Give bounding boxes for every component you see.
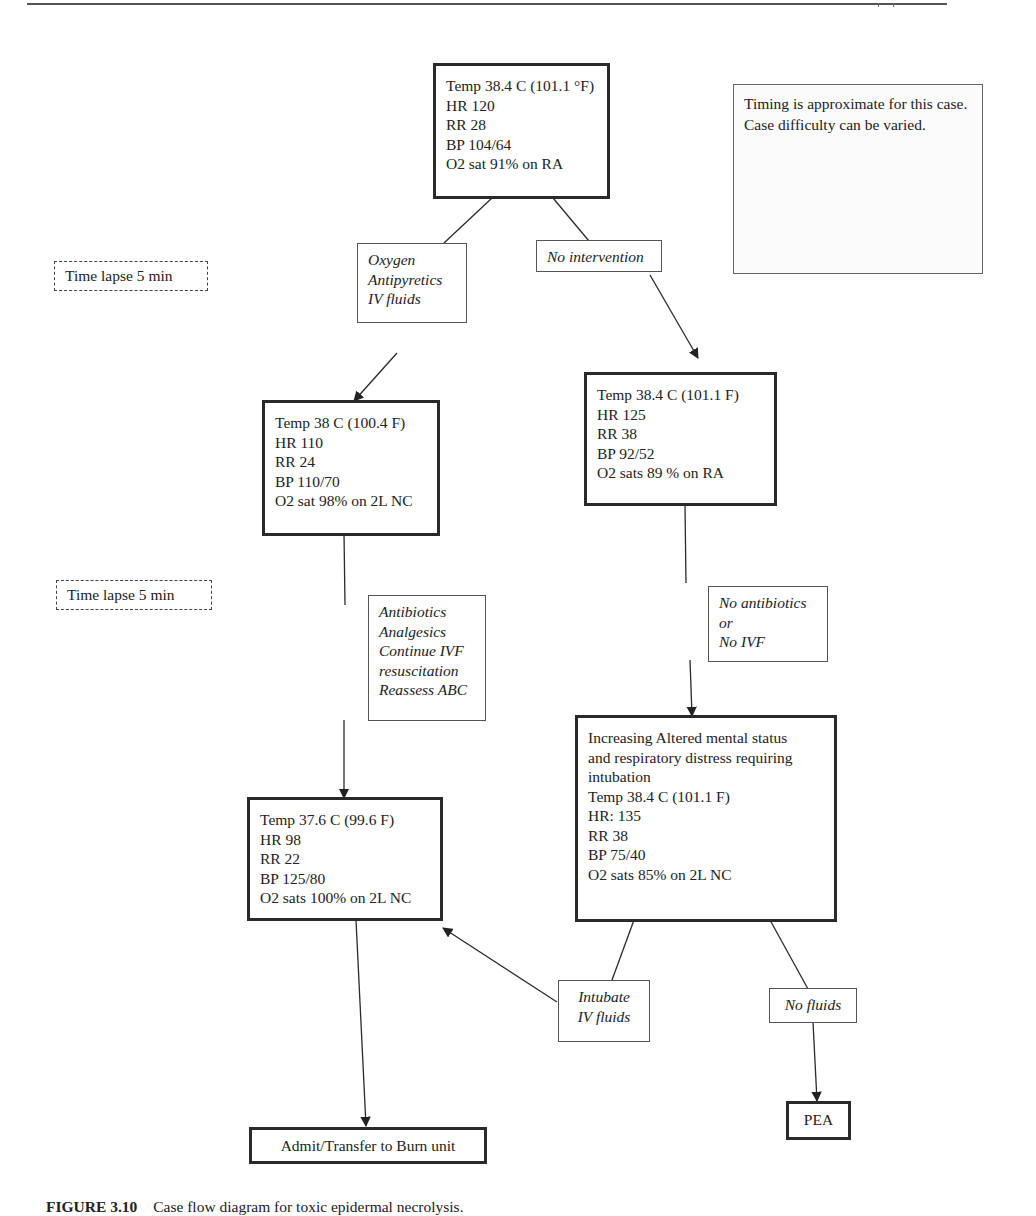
status-line: Increasing Altered mental status xyxy=(588,728,824,748)
outcome-label: PEA xyxy=(799,1110,838,1130)
time-lapse-marker-1: Time lapse 5 min xyxy=(54,261,208,291)
node-action-treat: Oxygen Antipyretics IV fluids xyxy=(357,243,467,323)
vital-o2: O2 sat 91% on RA xyxy=(446,154,597,174)
edge-nofluids-to-pea xyxy=(813,1022,817,1101)
edge-worse2-to-intubate xyxy=(612,920,634,980)
action-line: IV fluids xyxy=(368,289,456,309)
node-improved-vitals-1: Temp 38 C (100.4 F) HR 110 RR 24 BP 110/… xyxy=(262,400,440,536)
node-action-intubate: Intubate IV fluids xyxy=(558,980,650,1042)
vital-hr: HR 98 xyxy=(260,830,430,850)
vital-bp: BP 110/70 xyxy=(275,472,427,492)
action-line: Intubate xyxy=(569,987,639,1007)
vital-temp: Temp 38.4 C (101.1 °F) xyxy=(446,76,597,96)
edge-improved1-to-antibiotics xyxy=(344,533,345,605)
vital-rr: RR 24 xyxy=(275,452,427,472)
vital-o2: O2 sats 89 % on RA xyxy=(597,463,764,483)
time-lapse-label: Time lapse 5 min xyxy=(67,585,201,605)
node-action-no-fluids: No fluids xyxy=(769,988,857,1023)
action-line: IV fluids xyxy=(569,1007,639,1027)
node-outcome-pea: PEA xyxy=(786,1101,851,1140)
vital-hr: HR: 135 xyxy=(588,806,824,826)
vital-rr: RR 38 xyxy=(597,424,764,444)
node-outcome-admit: Admit/Transfer to Burn unit xyxy=(249,1127,487,1164)
edge-noabx-to-worse2 xyxy=(690,660,692,716)
outcome-label: Admit/Transfer to Burn unit xyxy=(262,1136,474,1156)
action-line: or xyxy=(719,613,817,633)
node-worse-vitals-1: Temp 38.4 C (101.1 F) HR 125 RR 38 BP 92… xyxy=(584,372,777,506)
figure-caption-text: Case flow diagram for toxic epidermal ne… xyxy=(153,1198,463,1215)
edge-none-to-worse1 xyxy=(650,275,698,358)
vital-hr: HR 120 xyxy=(446,96,597,116)
node-worse-vitals-2: Increasing Altered mental status and res… xyxy=(575,715,837,922)
vital-rr: RR 28 xyxy=(446,115,597,135)
vital-o2: O2 sat 98% on 2L NC xyxy=(275,491,431,511)
vital-rr: RR 38 xyxy=(588,826,824,846)
timing-note-text: Timing is approximate for this case. Cas… xyxy=(744,93,972,135)
vital-o2: O2 sats 100% on 2L NC xyxy=(260,888,430,908)
edge-worse2-to-nofluids xyxy=(770,920,808,989)
vital-rr: RR 22 xyxy=(260,849,430,869)
action-line: Oxygen xyxy=(368,250,456,270)
node-action-no-intervention: No intervention xyxy=(536,240,662,272)
node-action-no-antibiotics: No antibiotics or No IVF xyxy=(708,586,828,662)
edge-worse1-to-noabx xyxy=(685,505,686,583)
action-line: Continue IVF xyxy=(379,641,475,661)
vital-bp: BP 125/80 xyxy=(260,869,430,889)
figure-label: FIGURE 3.10 xyxy=(46,1198,137,1215)
vital-hr: HR 125 xyxy=(597,405,764,425)
vital-hr: HR 110 xyxy=(275,433,427,453)
action-line: Antipyretics xyxy=(368,270,456,290)
page-header-rule xyxy=(27,3,947,5)
header-rule-tick xyxy=(878,3,879,7)
vital-temp: Temp 38.4 C (101.1 F) xyxy=(597,385,764,405)
time-lapse-marker-2: Time lapse 5 min xyxy=(56,580,212,610)
vital-bp: BP 92/52 xyxy=(597,444,764,464)
figure-caption: FIGURE 3.10 Case flow diagram for toxic … xyxy=(46,1198,464,1216)
action-line: Antibiotics xyxy=(379,602,475,622)
action-line: No IVF xyxy=(719,632,817,652)
vital-temp: Temp 38.4 C (101.1 F) xyxy=(588,787,824,807)
edge-improved2-to-admit xyxy=(356,920,366,1126)
action-line: No fluids xyxy=(780,995,846,1015)
edge-treat-to-improved1 xyxy=(354,353,397,401)
action-line: resuscitation xyxy=(379,661,475,681)
vital-temp: Temp 38 C (100.4 F) xyxy=(275,413,427,433)
node-initial-vitals: Temp 38.4 C (101.1 °F) HR 120 RR 28 BP 1… xyxy=(433,63,610,199)
header-rule-tick xyxy=(893,3,894,7)
node-action-antibiotics: Antibiotics Analgesics Continue IVF resu… xyxy=(368,595,486,721)
edge-intubate-to-improved2 xyxy=(443,928,557,1002)
edge-initial-to-none xyxy=(553,198,589,241)
vital-o2: O2 sats 85% on 2L NC xyxy=(588,865,824,885)
action-line: No intervention xyxy=(547,247,651,267)
vital-temp: Temp 37.6 C (99.6 F) xyxy=(260,810,430,830)
action-line: Analgesics xyxy=(379,622,475,642)
action-line: Reassess ABC xyxy=(379,680,475,700)
status-line: and respiratory distress requiring xyxy=(588,748,824,768)
action-line: No antibiotics xyxy=(719,593,817,613)
vital-bp: BP 75/40 xyxy=(588,845,824,865)
edge-initial-to-treat xyxy=(444,198,492,243)
time-lapse-label: Time lapse 5 min xyxy=(65,266,197,286)
timing-note: Timing is approximate for this case. Cas… xyxy=(733,84,983,274)
node-improved-vitals-2: Temp 37.6 C (99.6 F) HR 98 RR 22 BP 125/… xyxy=(247,797,443,921)
status-line: intubation xyxy=(588,767,824,787)
vital-bp: BP 104/64 xyxy=(446,135,597,155)
